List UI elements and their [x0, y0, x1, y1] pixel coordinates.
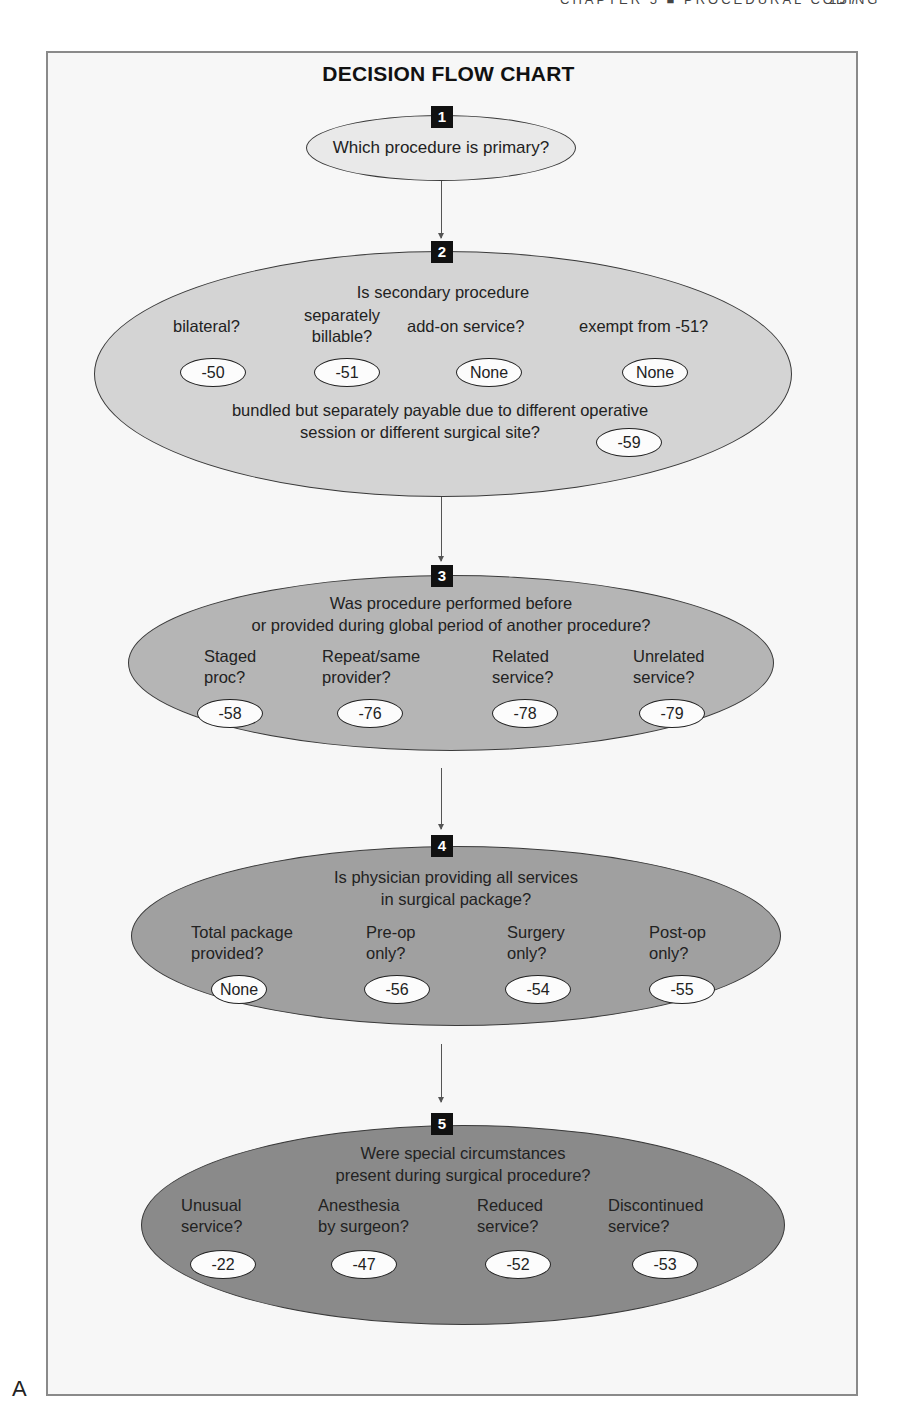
option-line-1: Unusual	[181, 1195, 242, 1216]
connector-2-3	[441, 497, 442, 561]
step-5-option-discontinued: Discontinued service?	[608, 1195, 703, 1237]
step-5-option-unusual: Unusual service?	[181, 1195, 242, 1237]
step-3-option-staged: Staged proc?	[204, 646, 256, 688]
step-3-badge: 3	[431, 565, 453, 587]
page-number: 157	[829, 0, 860, 7]
option-line-2: only?	[649, 943, 706, 964]
option-line-1: Post-op	[649, 922, 706, 943]
question-line-1: Were special circumstances	[141, 1142, 785, 1164]
modifier-pill: -47	[331, 1250, 397, 1279]
modifier-pill: None	[622, 358, 688, 387]
option-line-1: Unrelated	[633, 646, 705, 667]
modifier-pill: -78	[492, 699, 558, 728]
option-line-1: Anesthesia	[318, 1195, 409, 1216]
chart-title: DECISION FLOW CHART	[0, 62, 897, 86]
step-2-option-exempt: exempt from -51?	[579, 316, 708, 337]
question-line-1: Was procedure performed before	[128, 592, 774, 614]
modifier-pill: -59	[596, 428, 662, 457]
step-3-question: Was procedure performed before or provid…	[128, 592, 774, 636]
option-line-2: billable?	[300, 326, 384, 347]
option-line-1: Reduced	[477, 1195, 543, 1216]
step-5-option-reduced: Reduced service?	[477, 1195, 543, 1237]
question-line-2: or provided during global period of anot…	[128, 614, 774, 636]
extra-line-1: bundled but separately payable due to di…	[150, 399, 730, 421]
option-line-2: provider?	[322, 667, 420, 688]
running-head: CHAPTER 5 ■ PROCEDURAL CODING 157	[560, 0, 880, 8]
step-4-option-total-package: Total package provided?	[191, 922, 293, 964]
option-line-1: Surgery	[507, 922, 565, 943]
option-line-2: service?	[608, 1216, 703, 1237]
question-line-1: Is physician providing all services	[131, 866, 781, 888]
step-4-option-pre-op: Pre-op only?	[366, 922, 416, 964]
step-4-question: Is physician providing all services in s…	[131, 866, 781, 910]
step-2-option-bilateral: bilateral?	[173, 316, 240, 337]
step-5-question: Were special circumstances present durin…	[141, 1142, 785, 1186]
modifier-pill: -51	[314, 358, 380, 387]
option-line-2: service?	[477, 1216, 543, 1237]
option-line-1: Pre-op	[366, 922, 416, 943]
step-5-badge: 5	[431, 1113, 453, 1135]
modifier-pill: -52	[485, 1250, 551, 1279]
step-2-question: Is secondary procedure	[94, 281, 792, 303]
modifier-pill: -53	[632, 1250, 698, 1279]
option-line-1: separately	[300, 305, 384, 326]
option-line-2: proc?	[204, 667, 256, 688]
modifier-pill: -54	[505, 975, 571, 1004]
modifier-pill: None	[211, 975, 267, 1004]
connector-3-4	[441, 768, 442, 829]
option-line-2: service?	[633, 667, 705, 688]
figure-label: A	[12, 1376, 27, 1402]
option-line-1: Total package	[191, 922, 293, 943]
question-line-2: in surgical package?	[131, 888, 781, 910]
step-3-option-repeat: Repeat/same provider?	[322, 646, 420, 688]
step-5-option-anesthesia: Anesthesia by surgeon?	[318, 1195, 409, 1237]
option-line-1: Related	[492, 646, 553, 667]
option-line-1: Discontinued	[608, 1195, 703, 1216]
step-2-option-separately-billable: separately billable?	[300, 305, 384, 347]
modifier-pill: -79	[639, 699, 705, 728]
modifier-pill: -58	[197, 699, 263, 728]
step-3-option-unrelated: Unrelated service?	[633, 646, 705, 688]
modifier-pill: -56	[364, 975, 430, 1004]
modifier-pill: None	[456, 358, 522, 387]
modifier-pill: -55	[649, 975, 715, 1004]
option-line-2: service?	[181, 1216, 242, 1237]
step-4-option-post-op: Post-op only?	[649, 922, 706, 964]
step-1-badge: 1	[431, 106, 453, 128]
option-line-1: Repeat/same	[322, 646, 420, 667]
step-1-question: Which procedure is primary?	[306, 137, 576, 159]
modifier-pill: -22	[190, 1250, 256, 1279]
step-2-badge: 2	[431, 241, 453, 263]
option-line-2: only?	[507, 943, 565, 964]
modifier-pill: -50	[180, 358, 246, 387]
step-4-badge: 4	[431, 835, 453, 857]
question-line-2: present during surgical procedure?	[141, 1164, 785, 1186]
step-4-option-surgery: Surgery only?	[507, 922, 565, 964]
connector-1-2	[441, 181, 442, 238]
modifier-pill: -76	[337, 699, 403, 728]
option-line-1: Staged	[204, 646, 256, 667]
connector-4-5	[441, 1044, 442, 1102]
option-line-2: by surgeon?	[318, 1216, 409, 1237]
option-line-2: service?	[492, 667, 553, 688]
option-line-2: provided?	[191, 943, 293, 964]
option-line-2: only?	[366, 943, 416, 964]
step-2-option-add-on: add-on service?	[407, 316, 524, 337]
step-3-option-related: Related service?	[492, 646, 553, 688]
